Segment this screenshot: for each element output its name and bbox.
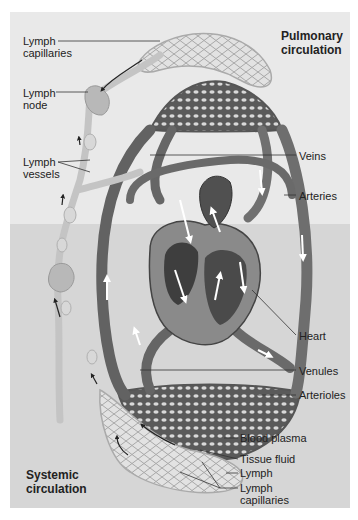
label-lymph-node: Lymph node xyxy=(23,87,56,111)
label-veins: Veins xyxy=(299,150,326,162)
label-lymph: Lymph xyxy=(240,467,273,479)
descending-aorta xyxy=(235,330,290,368)
systemic-artery-right xyxy=(282,130,307,393)
heart xyxy=(149,176,260,345)
inferior-vena-cava xyxy=(146,330,170,390)
label-tissue-fluid: Tissue fluid xyxy=(240,453,295,465)
label-arterioles: Arterioles xyxy=(299,389,345,401)
pulmonary-capillary-bed xyxy=(150,81,282,131)
label-blood-plasma: Blood plasma xyxy=(240,432,307,444)
label-heart: Heart xyxy=(299,330,326,342)
lymph-node-lower xyxy=(48,263,74,292)
pulmonary-circulation-title: Pulmonary circulation xyxy=(281,29,343,57)
label-lymph-vessels: Lymph vessels xyxy=(23,156,60,180)
systemic-circulation-title: Systemic circulation xyxy=(26,468,87,496)
label-lymph-capillaries-top: Lymph capillaries xyxy=(23,35,72,59)
systemic-vein-left xyxy=(102,130,150,395)
label-lymph-capillaries-bottom: Lymph capillaries xyxy=(240,482,289,506)
label-venules: Venules xyxy=(299,365,338,377)
pulmonary-artery xyxy=(248,130,268,218)
label-arteries: Arteries xyxy=(299,190,337,202)
